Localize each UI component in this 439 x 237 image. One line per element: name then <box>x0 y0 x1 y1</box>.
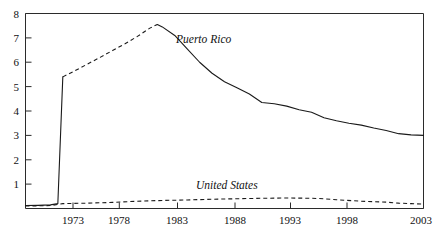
y-axis-label-2: 2 <box>14 154 20 166</box>
y-axis-label-8: 8 <box>14 8 20 20</box>
y-axis-label-3: 3 <box>14 129 20 141</box>
y-axis-labels: 8 7 6 5 4 3 2 1 <box>14 8 20 190</box>
y-axis-label-1: 1 <box>14 178 20 190</box>
x-axis-labels: 1973 1978 1983 1988 1993 1998 2003 <box>62 214 433 226</box>
x-axis-label-1973: 1973 <box>62 214 85 226</box>
y-axis-label-4: 4 <box>14 105 20 117</box>
x-axis-label-1983: 1983 <box>166 214 189 226</box>
y-axis-label-7: 7 <box>14 32 20 44</box>
x-axis-label-1978: 1978 <box>108 214 131 226</box>
x-axis-label-1998: 1998 <box>336 214 359 226</box>
y-axis-ticks <box>26 14 32 185</box>
x-axis-label-2003: 2003 <box>410 214 433 226</box>
chart-figure: 8 7 6 5 4 3 2 1 1973 1978 1983 1988 1993 <box>0 0 439 237</box>
series-annotation-puerto-rico: Puerto Rico <box>175 33 231 45</box>
line-chart-canvas: 8 7 6 5 4 3 2 1 1973 1978 1983 1988 1993 <box>0 0 439 237</box>
x-axis-label-1993: 1993 <box>279 214 302 226</box>
series-puerto-rico-dashed-segment <box>63 24 158 76</box>
x-axis-label-1988: 1988 <box>224 214 247 226</box>
x-axis-ticks <box>73 203 424 209</box>
series-united-states-dashed <box>26 198 424 206</box>
y-axis-label-6: 6 <box>14 56 20 68</box>
series-puerto-rico-rise-solid <box>26 77 63 206</box>
y-axis-label-5: 5 <box>14 81 20 93</box>
series-annotation-united-states: United States <box>196 179 258 191</box>
